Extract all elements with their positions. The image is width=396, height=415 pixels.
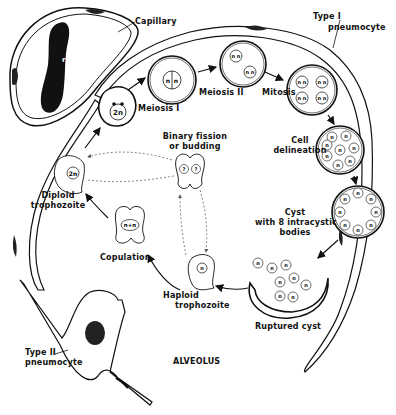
svg-text:2n: 2n xyxy=(69,170,77,177)
type1-label-line2: pneumocyte xyxy=(328,23,386,33)
svg-text:n: n xyxy=(356,190,360,196)
type1-label-line1: Type I xyxy=(313,12,341,22)
svg-text:n: n xyxy=(166,77,170,84)
svg-text:n n: n n xyxy=(318,95,327,101)
svg-text:n: n xyxy=(278,279,282,285)
copulation-label: Copulation xyxy=(100,253,151,263)
svg-text:n: n xyxy=(352,145,356,151)
meiosis1-label: Meiosis I xyxy=(138,104,179,114)
svg-text:n: n xyxy=(338,209,342,215)
svg-text:n: n xyxy=(256,260,260,266)
svg-text:n n: n n xyxy=(246,69,255,75)
svg-text:n n: n n xyxy=(298,79,307,85)
type2-label-line1: Type II xyxy=(25,348,56,358)
cyst-label-line2: with 8 intracystic xyxy=(255,218,335,228)
mature-cyst: n n n n n n n n xyxy=(332,186,384,238)
meiosis-ii-cell: n n xyxy=(148,56,196,104)
type2-label-line2: pneumocyte xyxy=(25,358,83,368)
binary-fission-label-line1: Binary fission xyxy=(160,132,230,142)
haploid-trophozoite: n xyxy=(188,255,214,290)
alveolus-label: ALVEOLUS xyxy=(173,357,220,367)
svg-text:n n: n n xyxy=(318,79,327,85)
svg-text:n n: n n xyxy=(298,95,307,101)
svg-text:n: n xyxy=(343,196,347,202)
svg-text:n: n xyxy=(270,265,274,271)
mitosis-label: Mitosis xyxy=(262,88,296,98)
cell-delineation-label-line2: delineation xyxy=(272,146,328,156)
svg-text:n: n xyxy=(330,134,334,140)
svg-text:n n: n n xyxy=(232,53,241,59)
svg-text:n: n xyxy=(369,222,373,228)
copulation-cell: n+n xyxy=(115,206,144,243)
cyst-label-line3: bodies xyxy=(255,228,335,238)
meiosis2-label: Meiosis II xyxy=(199,88,244,98)
svg-text:n: n xyxy=(174,77,178,84)
ruptured-cyst-label: Ruptured cyst xyxy=(255,322,321,332)
mitosis-cell: n n n n xyxy=(220,41,266,87)
svg-text:n: n xyxy=(338,147,342,153)
cyst-label-line1: Cyst xyxy=(255,208,335,218)
svg-text:n: n xyxy=(356,227,360,233)
diploid-label-line2: trophozoite xyxy=(30,201,86,211)
binary-fission-cell: ? ? xyxy=(176,154,205,188)
svg-text:n: n xyxy=(343,222,347,228)
rbc-label: rbc xyxy=(62,55,75,65)
binary-fission-label-line2: or budding xyxy=(160,142,230,152)
svg-text:n: n xyxy=(200,265,204,271)
cell-delineation-label-line1: Cell xyxy=(272,136,328,146)
type-ii-pneumocyte xyxy=(20,280,152,405)
diploid-label-line1: Diploid xyxy=(30,191,86,201)
svg-text:?: ? xyxy=(195,166,198,172)
meiosis-i-cell: 2n xyxy=(99,87,136,126)
svg-text:n: n xyxy=(369,196,373,202)
ruptured-cyst: n n n n n n n n xyxy=(249,258,328,318)
svg-text:n: n xyxy=(284,262,288,268)
svg-text:n: n xyxy=(304,282,308,288)
svg-text:n: n xyxy=(336,162,340,168)
haploid-label-line1: Haploid xyxy=(163,291,199,301)
diploid-trophozoite: 2n xyxy=(54,156,84,194)
svg-text:n: n xyxy=(278,293,282,299)
haploid-label-line2: trophozoite xyxy=(175,301,230,311)
svg-text:n: n xyxy=(344,133,348,139)
svg-text:n+n: n+n xyxy=(124,222,137,228)
svg-text:n: n xyxy=(374,209,378,215)
svg-text:?: ? xyxy=(183,166,186,172)
svg-text:2n: 2n xyxy=(113,109,123,117)
svg-text:n: n xyxy=(292,275,296,281)
capillary-label: Capillary xyxy=(135,17,177,27)
svg-text:n: n xyxy=(348,158,352,164)
svg-text:n: n xyxy=(291,294,295,300)
